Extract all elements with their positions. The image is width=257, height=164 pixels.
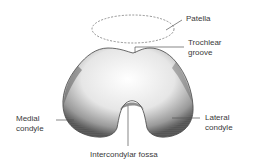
label-trochlear-line2: groove bbox=[188, 48, 212, 57]
label-intercondylar-fossa: Intercondylar fossa bbox=[90, 150, 158, 159]
label-medial-line2: condyle bbox=[16, 124, 44, 133]
label-medial-line1: Medial bbox=[16, 114, 40, 123]
femur-diagram bbox=[0, 0, 257, 164]
patella-outline bbox=[92, 15, 174, 43]
label-patella: Patella bbox=[186, 14, 210, 23]
label-lateral-line2: condyle bbox=[205, 123, 233, 132]
label-trochlear-line1: Trochlear bbox=[188, 38, 222, 47]
label-lateral-line1: Lateral bbox=[205, 113, 229, 122]
